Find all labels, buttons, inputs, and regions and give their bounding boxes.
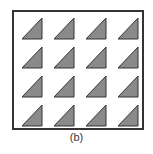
triangle-shape — [86, 18, 106, 39]
triangle-shape — [54, 18, 74, 39]
triangle-shape — [22, 47, 42, 68]
triangle-shape — [54, 105, 74, 126]
triangle-shape — [22, 76, 42, 97]
triangle-grid — [14, 12, 142, 128]
triangle-shape — [118, 18, 138, 39]
triangle-shape — [54, 76, 74, 97]
triangle-shape — [86, 47, 106, 68]
figure-caption: (b) — [0, 131, 153, 143]
triangle-shape — [22, 18, 42, 39]
triangle-shape — [22, 105, 42, 126]
triangle-shape — [86, 76, 106, 97]
triangle-shape — [118, 105, 138, 126]
triangle-shape — [86, 105, 106, 126]
triangle-shape — [118, 76, 138, 97]
figure-frame — [12, 10, 144, 130]
triangle-shape — [54, 47, 74, 68]
triangle-shape — [118, 47, 138, 68]
